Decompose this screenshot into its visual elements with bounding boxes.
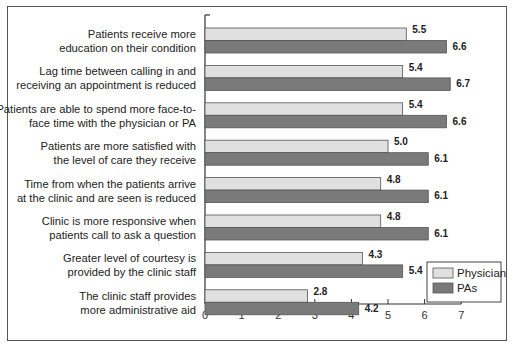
bar-physician <box>205 103 403 116</box>
category-label: Patients are able to spend more face-to-… <box>0 103 197 129</box>
data-label: 5.4 <box>409 62 423 73</box>
data-label: 4.2 <box>365 303 379 314</box>
category-label: The clinic staff providesmore administra… <box>79 290 196 316</box>
data-label: 6.1 <box>434 153 448 164</box>
bar-pas <box>205 41 447 54</box>
bar-pas <box>205 265 403 278</box>
data-label: 4.8 <box>387 211 401 222</box>
legend-swatch-physician <box>433 268 453 278</box>
bar-pas <box>205 153 428 166</box>
data-label: 6.7 <box>456 78 470 89</box>
legend-label-pas: PAs <box>457 282 477 294</box>
category-label: Greater level of courtesy isprovided by … <box>63 252 197 278</box>
data-label: 6.6 <box>453 41 467 52</box>
category-label: Clinic is more responsive whenpatients c… <box>42 215 196 241</box>
bar-pas <box>205 302 359 315</box>
bar-physician <box>205 178 381 191</box>
category-label: Time from when the patients arriveat the… <box>17 178 196 204</box>
bar-chart: 01234567Patients receive moreeducation o… <box>0 0 514 352</box>
bar-pas <box>205 228 428 241</box>
data-label: 4.8 <box>387 174 401 185</box>
x-tick-label: 7 <box>458 309 464 321</box>
data-label: 5.5 <box>412 24 426 35</box>
legend-swatch-pas <box>433 283 453 293</box>
data-label: 5.4 <box>409 265 423 276</box>
category-label: Lag time between calling in andreceiving… <box>16 65 196 91</box>
data-label: 5.4 <box>409 99 423 110</box>
x-tick-label: 5 <box>385 309 391 321</box>
data-label: 2.8 <box>313 286 327 297</box>
bar-pas <box>205 190 428 203</box>
bar-physician <box>205 252 362 265</box>
category-label: Patients receive moreeducation on their … <box>59 28 196 54</box>
data-label: 6.1 <box>434 190 448 201</box>
bar-pas <box>205 78 450 91</box>
category-label: Patients are more satisfied withthe leve… <box>41 140 196 166</box>
x-tick-label: 6 <box>422 309 428 321</box>
bar-physician <box>205 65 403 78</box>
data-label: 6.1 <box>434 228 448 239</box>
data-label: 4.3 <box>368 249 382 260</box>
data-label: 5.0 <box>394 136 408 147</box>
data-label: 6.6 <box>453 116 467 127</box>
legend-label-physician: Physician <box>457 267 506 279</box>
bar-physician <box>205 215 381 228</box>
bar-pas <box>205 115 447 128</box>
bar-physician <box>205 140 388 153</box>
bar-physician <box>205 28 406 41</box>
bar-physician <box>205 290 307 303</box>
